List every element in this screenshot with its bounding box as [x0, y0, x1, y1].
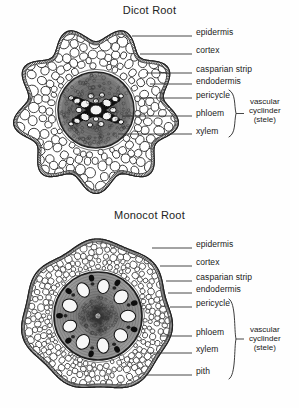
diagram-page: Dicot Root epidermis cortex casparian st… [0, 0, 299, 408]
monocot-title: Monocot Root [0, 209, 299, 221]
monocot-vascular-cylinder-label: vascular cyclinder (stele) [249, 325, 281, 353]
dicot-vc-line-1: vascular [249, 97, 281, 106]
dicot-label-epidermis: epidermis [196, 28, 233, 37]
monocot-label-pith: pith [196, 367, 210, 376]
monocot-label-xylem: xylem [196, 345, 218, 354]
figure-monocot-root: Monocot Root epidermis cortex casparian … [0, 204, 299, 408]
dicot-label-pericycle: pericycle [196, 91, 230, 100]
monocot-vc-line-1: vascular [249, 325, 281, 334]
monocot-label-casparian-strip: casparian strip [196, 273, 252, 282]
dicot-vc-line-3: (stele) [249, 115, 281, 124]
monocot-label-epidermis: epidermis [196, 240, 233, 249]
dicot-label-cortex: cortex [196, 46, 219, 55]
figure-dicot-root: Dicot Root epidermis cortex casparian st… [0, 0, 299, 204]
dicot-root-cross-section [8, 22, 188, 200]
dicot-label-endodermis: endodermis [196, 77, 241, 86]
dicot-label-casparian-strip: casparian strip [196, 65, 252, 74]
monocot-label-cortex: cortex [196, 258, 219, 267]
monocot-label-endodermis: endodermis [196, 285, 241, 294]
dicot-vascular-cylinder-label: vascular cyclinder (stele) [249, 97, 281, 125]
dicot-label-xylem: xylem [196, 127, 218, 136]
monocot-root-cross-section [12, 230, 188, 404]
monocot-vc-line-3: (stele) [249, 343, 281, 352]
dicot-label-phloem: phloem [196, 109, 224, 118]
monocot-label-phloem: phloem [196, 328, 224, 337]
dicot-title: Dicot Root [0, 4, 299, 16]
dicot-vc-line-2: cyclinder [249, 106, 281, 115]
monocot-label-pericycle: pericycle [196, 299, 230, 308]
monocot-vc-line-2: cyclinder [249, 334, 281, 343]
